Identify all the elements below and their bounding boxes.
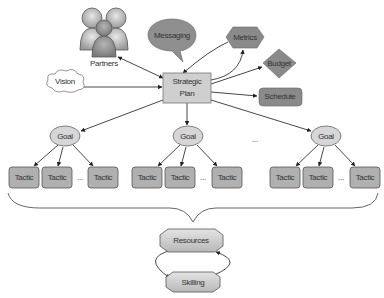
tactic-label: Tactic (94, 173, 113, 182)
tactic-label: Tactic (15, 173, 34, 182)
goal-1-label: Goal (57, 132, 73, 141)
messaging-bubble (148, 19, 196, 62)
tactic-label: Tactic (356, 173, 375, 182)
goal-2-label: Goal (180, 132, 196, 141)
tactic-ellipsis: ... (338, 173, 344, 182)
tactic-ellipsis: ... (200, 173, 206, 182)
goal-3-label: Goal (318, 132, 334, 141)
tactic-label: Tactic (48, 173, 67, 182)
tactic-label: Tactic (138, 173, 157, 182)
resources-label: Resources (173, 236, 209, 245)
tactic-ellipsis: ... (77, 173, 83, 182)
goals-ellipsis: ... (252, 135, 258, 144)
tactic-label: Tactic (276, 173, 295, 182)
tactic-label: Tactic (171, 173, 190, 182)
tactic-label: Tactic (309, 173, 328, 182)
schedule-label: Schedule (265, 92, 297, 101)
brace (8, 193, 378, 222)
partners-icon (80, 8, 128, 57)
skilling-label: Skilling (182, 278, 205, 287)
messaging-label: Messaging (154, 31, 190, 40)
partners-label: Partners (90, 59, 118, 68)
budget-label: Budget (267, 59, 292, 68)
strategic-plan-label-2: Plan (180, 89, 195, 98)
vision-label: Vision (55, 77, 75, 86)
strategic-plan-diagram: Partners Vision Messaging Strategic Plan… (0, 0, 384, 298)
metrics-label: Metrics (233, 33, 257, 42)
strategic-plan-label-1: Strategic (173, 77, 202, 86)
tactic-label: Tactic (218, 173, 237, 182)
